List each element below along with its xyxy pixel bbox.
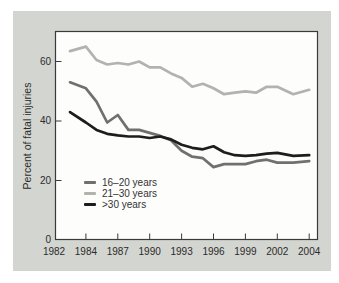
line-chart [0, 0, 339, 283]
plot-area [56, 32, 318, 240]
